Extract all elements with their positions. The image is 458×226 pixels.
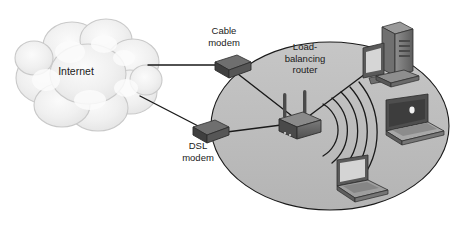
internet-cloud — [15, 19, 162, 131]
diagram-canvas — [0, 0, 458, 226]
router-antenna-left — [283, 93, 286, 118]
desktop-tower — [382, 22, 413, 76]
link-internet-dsl-modem — [140, 96, 202, 128]
network-diagram: Internet Cable modem DSL modem Load- bal… — [0, 0, 458, 226]
desktop-computer — [363, 22, 419, 87]
